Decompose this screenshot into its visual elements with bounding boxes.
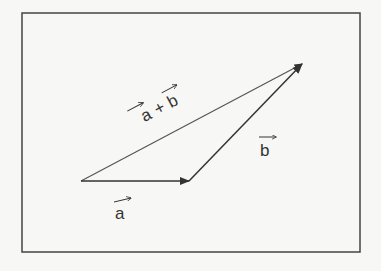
label-a: a bbox=[114, 198, 131, 223]
vector-b bbox=[189, 64, 302, 181]
svg-text:b: b bbox=[260, 141, 269, 160]
label-b: b bbox=[259, 137, 276, 160]
svg-text:a: a bbox=[115, 204, 125, 223]
svg-text:+: + bbox=[151, 97, 169, 118]
label-sum: a + b bbox=[127, 85, 187, 131]
svg-text:a: a bbox=[138, 104, 156, 125]
vector-diagram: a b a + b bbox=[0, 0, 381, 271]
vector-sum bbox=[81, 64, 302, 181]
frame bbox=[22, 13, 360, 252]
svg-text:b: b bbox=[164, 91, 181, 112]
